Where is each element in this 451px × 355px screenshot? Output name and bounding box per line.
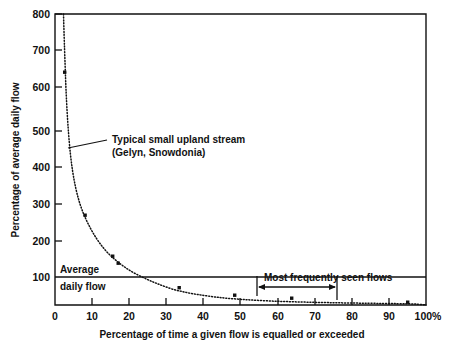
x-tick-label-90: 90 xyxy=(383,310,395,322)
data-point-marker xyxy=(233,294,236,297)
y-axis-title: Percentage of average daily flow xyxy=(10,82,21,237)
x-tick-label-60: 60 xyxy=(272,310,284,322)
x-tick-label-100: 100% xyxy=(415,310,443,322)
series-callout-leader-line xyxy=(68,140,107,148)
most-frequent-flows-band: Most frequently seen flows xyxy=(257,272,393,300)
data-curve-typical-small-upland-stream xyxy=(64,14,427,305)
x-tick-label-70: 70 xyxy=(309,310,321,322)
average-daily-flow-label-line-1: Average xyxy=(60,264,100,275)
flow-duration-curve-chart: 800 700 600 500 400 300 200 100 0 10 20 xyxy=(0,0,451,355)
data-point-marker xyxy=(406,301,409,304)
y-tick-label-500: 500 xyxy=(32,125,50,137)
x-tick-label-40: 40 xyxy=(197,310,209,322)
data-point-marker xyxy=(111,255,114,258)
band-arrowhead-left xyxy=(258,284,265,290)
band-arrowhead-right xyxy=(329,284,336,290)
y-tick-label-300: 300 xyxy=(32,198,50,210)
most-frequent-flows-label: Most frequently seen flows xyxy=(264,272,393,283)
x-axis-title: Percentage of time a given flow is equal… xyxy=(99,329,364,340)
average-daily-flow-label-line-2: daily flow xyxy=(60,281,106,292)
plot-frame xyxy=(55,14,426,305)
y-tick-label-100: 100 xyxy=(32,271,50,283)
data-point-marker xyxy=(117,262,120,265)
x-tick-label-20: 20 xyxy=(123,310,135,322)
x-tick-label-10: 10 xyxy=(86,310,98,322)
data-point-markers xyxy=(63,71,409,304)
y-tick-label-700: 700 xyxy=(32,44,50,56)
x-tick-label-50: 50 xyxy=(234,310,246,322)
y-axis-tick-labels: 800 700 600 500 400 300 200 100 xyxy=(32,8,50,283)
x-tick-label-30: 30 xyxy=(160,310,172,322)
y-axis-ticks xyxy=(55,14,62,241)
x-axis-tick-labels: 0 10 20 30 40 50 60 70 80 90 100% xyxy=(52,310,442,322)
x-tick-label-80: 80 xyxy=(346,310,358,322)
y-tick-label-400: 400 xyxy=(32,161,50,173)
y-tick-label-800: 800 xyxy=(32,8,50,20)
chart-figure: 800 700 600 500 400 300 200 100 0 10 20 xyxy=(0,0,451,355)
x-tick-label-0: 0 xyxy=(52,310,58,322)
average-daily-flow-label: Average daily flow xyxy=(60,264,106,292)
data-point-marker xyxy=(63,71,66,74)
data-point-marker xyxy=(290,297,293,300)
data-point-marker xyxy=(83,214,86,217)
axis-titles: Percentage of time a given flow is equal… xyxy=(10,82,365,340)
y-tick-label-600: 600 xyxy=(32,81,50,93)
series-callout-line-1: Typical small upland stream xyxy=(112,134,245,145)
data-point-marker xyxy=(178,286,181,289)
series-callout-line-2: (Gelyn, Snowdonia) xyxy=(112,147,205,158)
series-callout-text: Typical small upland stream (Gelyn, Snow… xyxy=(112,134,245,158)
y-tick-label-200: 200 xyxy=(32,235,50,247)
